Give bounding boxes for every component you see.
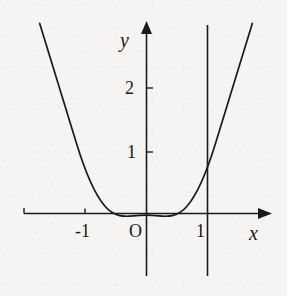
origin-label: O <box>129 222 142 240</box>
y-axis-arrowhead <box>141 21 152 34</box>
x-axis <box>24 208 272 219</box>
y-tick-label-2: 2 <box>125 79 134 97</box>
y-tick-label-1: 1 <box>127 143 136 161</box>
x-axis-label: x <box>249 223 258 243</box>
x-tick-label-minus-1: -1 <box>75 222 90 240</box>
y-axis-label: y <box>120 30 129 50</box>
y-axis <box>141 21 153 276</box>
x-axis-arrowhead <box>258 208 272 219</box>
x-tick-label-1: 1 <box>196 222 205 240</box>
graph-canvas <box>0 0 287 296</box>
parabola-figure: y x 2 1 -1 1 O <box>0 0 287 296</box>
